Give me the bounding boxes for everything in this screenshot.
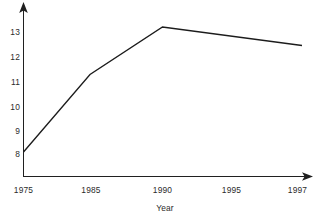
- x-tick-label-1990: 1990: [153, 185, 173, 195]
- x-tick-label-1997: 1997: [288, 185, 308, 195]
- line-chart: 13 12 11 10 9 8 1975 1985 1990 1995 1997…: [0, 0, 321, 219]
- x-tick-label-1975: 1975: [14, 185, 34, 195]
- y-tick-label-11: 11: [11, 77, 20, 87]
- x-tick-label-1985: 1985: [81, 185, 101, 195]
- y-tick-label-8: 8: [15, 149, 20, 159]
- y-tick-label-9: 9: [15, 126, 20, 136]
- y-tick-label-10: 10: [10, 102, 20, 112]
- y-tick-label-12: 12: [10, 52, 20, 62]
- x-axis-title: Year: [156, 203, 174, 213]
- data-series-line: [24, 27, 303, 152]
- y-tick-label-13: 13: [10, 27, 20, 37]
- chart-plot-area: 13 12 11 10 9 8 1975 1985 1990 1995 1997…: [0, 0, 321, 219]
- x-tick-label-1995: 1995: [222, 185, 242, 195]
